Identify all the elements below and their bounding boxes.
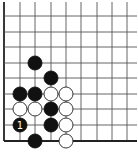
black-stone [44, 102, 58, 116]
white-stone [13, 102, 27, 116]
black-stone-icon [44, 71, 58, 85]
white-stone-icon [44, 87, 58, 101]
white-stone [59, 87, 73, 101]
white-stone [59, 118, 73, 132]
go-board-grid: 1 [0, 0, 138, 158]
black-stone [28, 134, 42, 148]
white-stone [59, 134, 73, 148]
white-stone-icon [59, 118, 73, 132]
white-stone [28, 102, 42, 116]
black-stone: 1 [13, 118, 27, 132]
black-stone-icon [44, 118, 58, 132]
white-stone-icon [59, 87, 73, 101]
black-stone-icon [13, 87, 27, 101]
white-stone-icon [13, 102, 27, 116]
black-stone [13, 87, 27, 101]
black-stone [44, 71, 58, 85]
black-stone-icon [28, 56, 42, 70]
black-stone [44, 118, 58, 132]
go-board-diagram: 1 [0, 0, 138, 158]
white-stone [59, 102, 73, 116]
white-stone [44, 87, 58, 101]
move-number-label: 1 [17, 120, 23, 131]
black-stone-icon [28, 87, 42, 101]
black-stone [28, 56, 42, 70]
black-stone [28, 87, 42, 101]
black-stone-icon [44, 102, 58, 116]
white-stone-icon [59, 134, 73, 148]
black-stone-icon [28, 134, 42, 148]
white-stone-icon [28, 102, 42, 116]
white-stone-icon [59, 102, 73, 116]
